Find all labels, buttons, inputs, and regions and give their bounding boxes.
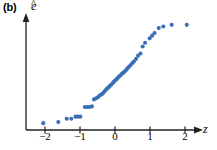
x-axis-tick-label: 2 [175,130,195,142]
data-point [78,115,82,119]
data-point [185,23,189,27]
data-point [41,121,45,125]
data-point [170,23,174,27]
x-axis-arrow-icon [194,127,203,134]
data-point [65,117,69,121]
data-point [143,41,147,45]
axes-group [23,13,203,133]
data-point [69,117,73,121]
data-point [56,120,60,124]
data-point [157,26,161,30]
data-point [153,31,157,35]
data-point [90,104,94,108]
x-axis-tick-label: −2 [35,130,55,142]
data-points-group [41,23,189,125]
scatter-plot-canvas [0,0,217,150]
y-axis-arrow-icon [23,13,30,22]
x-axis-tick-label: 1 [140,130,160,142]
data-point [139,51,143,55]
x-axis-tick-label: −1 [70,130,90,142]
figure-panel-b: (b) ^e z −2−1012 [0,0,217,150]
data-point [161,24,165,28]
x-axis-tick-label: 0 [105,130,125,142]
data-point [141,44,145,48]
